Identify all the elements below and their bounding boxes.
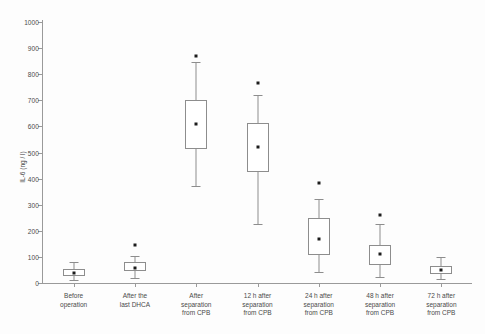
x-axis-category-label: 12 h afterseparationfrom CPB (227, 292, 289, 318)
median-marker (440, 269, 443, 272)
box-plot-group (430, 22, 452, 283)
median-marker (133, 266, 136, 269)
lower-whisker-cap (437, 279, 446, 280)
category-label-line: from CPB (349, 309, 411, 318)
y-axis-tick-label: 400 (28, 175, 39, 182)
box-plot-group (63, 22, 85, 283)
lower-whisker-cap (130, 278, 139, 279)
lower-whisker-cap (192, 186, 201, 187)
box-plot-group (247, 22, 269, 283)
lower-whisker (380, 265, 381, 277)
category-label-line: operation (43, 301, 105, 310)
outlier-marker (256, 82, 259, 85)
category-label-line: from CPB (227, 309, 289, 318)
median-marker (195, 123, 198, 126)
box-plot-group (185, 22, 207, 283)
x-axis-tick-mark (441, 283, 442, 287)
box-plot-group (124, 22, 146, 283)
iqr-box (308, 218, 330, 255)
category-label-line: from CPB (165, 309, 227, 318)
upper-whisker (318, 199, 319, 217)
y-axis-tick-label: 200 (28, 227, 39, 234)
category-label-line: After the (104, 292, 166, 301)
y-axis-tick-label: 800 (28, 71, 39, 78)
lower-whisker-cap (314, 272, 323, 273)
x-axis-tick-mark (135, 283, 136, 287)
y-axis-tick-label: 100 (28, 253, 39, 260)
upper-whisker (380, 224, 381, 245)
x-axis-category-label: Afterseparationfrom CPB (165, 292, 227, 318)
box-plot-group (369, 22, 391, 283)
category-label-line: separation (349, 301, 411, 310)
lower-whisker (257, 172, 258, 224)
outlier-marker (379, 213, 382, 216)
lower-whisker (134, 271, 135, 278)
upper-whisker-cap (376, 224, 385, 225)
plot-area (43, 22, 472, 283)
category-label-line: 12 h after (227, 292, 289, 301)
outlier-marker (317, 181, 320, 184)
x-axis-category-label: After thelast DHCA (104, 292, 166, 309)
y-axis-tick-label: 0 (35, 280, 39, 287)
y-axis-tick-label: 600 (28, 123, 39, 130)
category-label-line: 48 h after (349, 292, 411, 301)
box-plot-chart: IL-6 (ng / l) 01002003004005006007008009… (0, 0, 485, 334)
category-label-line: last DHCA (104, 301, 166, 310)
lower-whisker-cap (69, 280, 78, 281)
x-axis-tick-mark (74, 283, 75, 287)
x-axis-tick-mark (380, 283, 381, 287)
category-label-line: separation (288, 301, 350, 310)
y-axis-tick-label: 300 (28, 201, 39, 208)
x-axis-tick-mark (196, 283, 197, 287)
upper-whisker (196, 62, 197, 100)
category-label-line: Before (43, 292, 105, 301)
upper-whisker (441, 257, 442, 266)
median-marker (317, 238, 320, 241)
x-axis-tick-mark (258, 283, 259, 287)
median-marker (379, 253, 382, 256)
y-axis-tick-label: 1000 (24, 19, 39, 26)
x-axis-category-label: Beforeoperation (43, 292, 105, 309)
category-label-line: separation (227, 301, 289, 310)
category-label-line: After (165, 292, 227, 301)
category-label-line: from CPB (410, 309, 472, 318)
upper-whisker-cap (253, 95, 262, 96)
category-label-line: from CPB (288, 309, 350, 318)
upper-whisker (257, 95, 258, 123)
category-label-line: 24 h after (288, 292, 350, 301)
upper-whisker-cap (69, 262, 78, 263)
median-marker (256, 145, 259, 148)
upper-whisker-cap (130, 256, 139, 257)
x-axis-category-label: 24 h afterseparationfrom CPB (288, 292, 350, 318)
category-label-line: 72 h after (410, 292, 472, 301)
box-plot-group (308, 22, 330, 283)
y-axis-tick-label: 900 (28, 45, 39, 52)
x-axis-category-label: 72 h afterseparationfrom CPB (410, 292, 472, 318)
lower-whisker (196, 149, 197, 187)
x-axis-tick-mark (319, 283, 320, 287)
upper-whisker-cap (314, 199, 323, 200)
upper-whisker-cap (437, 257, 446, 258)
outlier-marker (195, 54, 198, 57)
median-marker (72, 272, 75, 275)
y-axis-tick-label: 700 (28, 97, 39, 104)
category-label-line: separation (165, 301, 227, 310)
y-axis-title: IL-6 (ng / l) (19, 151, 26, 182)
y-axis-tick-label: 500 (28, 149, 39, 156)
x-axis-category-label: 48 h afterseparationfrom CPB (349, 292, 411, 318)
lower-whisker-cap (253, 224, 262, 225)
upper-whisker-cap (192, 62, 201, 63)
lower-whisker (318, 255, 319, 272)
lower-whisker-cap (376, 277, 385, 278)
category-label-line: separation (410, 301, 472, 310)
outlier-marker (133, 244, 136, 247)
